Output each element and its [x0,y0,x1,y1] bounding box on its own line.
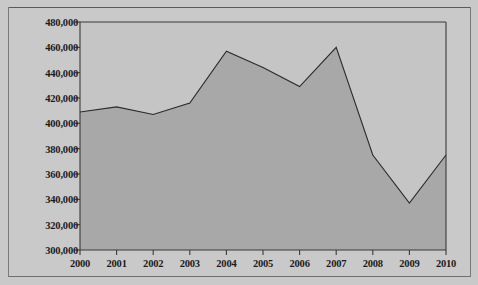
y-axis-tick-label: 360,000 [45,169,78,180]
chart-page: 300,000320,000340,000360,000380,000400,0… [0,0,478,285]
x-axis-tick-label: 2010 [436,258,456,269]
x-axis-tick-label: 2004 [216,258,236,269]
x-axis-tick-label: 2001 [106,258,126,269]
y-axis-tick-label: 460,000 [45,42,78,53]
x-axis-tick-label: 2007 [326,258,346,269]
y-axis-tick-label: 380,000 [45,143,78,154]
y-axis-tick-label: 480,000 [45,17,78,28]
y-axis-tick-label: 340,000 [45,194,78,205]
y-axis-tick-label: 320,000 [45,219,78,230]
x-axis-tick-label: 2008 [363,258,383,269]
x-axis-tick-label: 2002 [143,258,163,269]
x-axis-tick-label: 2006 [289,258,309,269]
y-axis-tick-label: 300,000 [45,245,78,256]
x-axis-tick-label: 2005 [253,258,273,269]
x-axis-tick-label: 2003 [180,258,200,269]
y-axis-tick-label: 440,000 [45,67,78,78]
y-axis-tick-label: 400,000 [45,118,78,129]
y-axis-labels: 300,000320,000340,000360,000380,000400,0… [16,0,78,285]
x-axis-tick-label: 2009 [399,258,419,269]
x-axis-tick-label: 2000 [70,258,90,269]
y-axis-tick-label: 420,000 [45,93,78,104]
